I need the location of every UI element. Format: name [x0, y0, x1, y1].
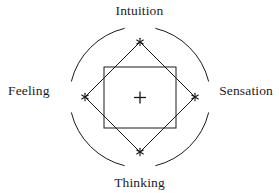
circle-arc-se	[156, 113, 209, 166]
diagram-canvas: Intuition Sensation Thinking Feeling	[0, 0, 279, 193]
center-cross-marker	[134, 92, 146, 104]
circle-arc-ne	[156, 28, 209, 81]
label-thinking: Thinking	[0, 176, 279, 190]
circle-arc-sw	[71, 113, 124, 166]
label-feeling: Feeling	[8, 84, 50, 98]
label-intuition: Intuition	[0, 4, 279, 18]
label-sensation: Sensation	[219, 84, 273, 98]
circle-arc-nw	[71, 28, 124, 81]
